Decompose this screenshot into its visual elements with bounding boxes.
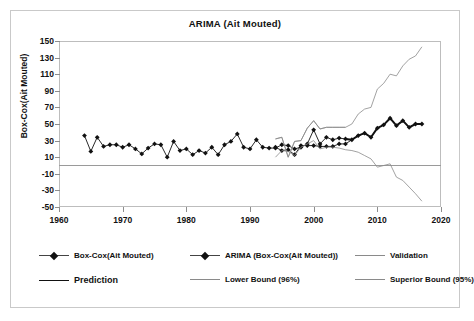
data-point-marker xyxy=(330,137,335,142)
x-axis-tick-label: 1970 xyxy=(113,215,132,225)
data-point-marker xyxy=(324,144,329,149)
data-point-marker xyxy=(241,145,246,150)
x-axis-tick-label: 2000 xyxy=(304,215,323,225)
legend-swatch-line-marker xyxy=(39,252,69,260)
y-axis-tick-mark xyxy=(55,157,60,158)
data-point-marker xyxy=(286,143,291,148)
x-axis-tick-mark xyxy=(377,207,378,212)
series-line xyxy=(275,47,421,157)
data-point-marker xyxy=(267,146,272,151)
legend-swatch-line xyxy=(39,276,69,284)
data-point-marker xyxy=(158,142,163,147)
chart-title: ARIMA (Ait Mouted) xyxy=(11,18,459,29)
y-axis-tick-label: 70 xyxy=(45,102,54,112)
x-axis-tick-label: 1980 xyxy=(177,215,196,225)
x-axis-tick-mark xyxy=(123,207,124,212)
legend-label: Box-Cox(Ait Mouted) xyxy=(74,251,154,260)
legend-item-arima: ARIMA (Box-Cox(Ait Mouted)) xyxy=(190,251,338,260)
chart-figure: ARIMA (Ait Mouted) Box-Cox(Ait Mouted) -… xyxy=(10,10,460,308)
data-point-marker xyxy=(114,142,119,147)
x-axis-tick-mark xyxy=(441,207,442,212)
data-point-marker xyxy=(330,144,335,149)
data-point-marker xyxy=(165,155,170,160)
y-axis-tick-mark xyxy=(55,91,60,92)
y-axis-tick-mark xyxy=(55,107,60,108)
data-point-marker xyxy=(152,142,157,147)
y-axis-tick-mark xyxy=(55,174,60,175)
legend-swatch-line xyxy=(190,276,220,284)
legend-label: ARIMA (Box-Cox(Ait Mouted)) xyxy=(225,251,338,260)
legend-swatch-line xyxy=(355,276,385,284)
legend-swatch-line-marker xyxy=(190,252,220,260)
legend-item-lower-bound: Lower Bound (96%) xyxy=(190,275,300,284)
x-axis-tick-mark xyxy=(186,207,187,212)
data-point-marker xyxy=(88,149,93,154)
legend-label: Superior Bound (95%) xyxy=(390,275,474,284)
data-point-marker xyxy=(273,145,278,150)
x-axis-tick-label: 1960 xyxy=(50,215,69,225)
y-axis-tick-label: 110 xyxy=(40,69,54,79)
legend-label: Validation xyxy=(390,251,428,260)
x-axis-tick-mark xyxy=(250,207,251,212)
legend-label: Prediction xyxy=(74,275,118,285)
y-axis-tick-mark xyxy=(55,124,60,125)
data-point-marker xyxy=(311,143,316,148)
y-axis-tick-label: 30 xyxy=(45,136,54,146)
data-point-marker xyxy=(108,142,113,147)
y-axis-tick-mark xyxy=(55,41,60,42)
y-axis-tick-label: 90 xyxy=(45,86,54,96)
y-axis-label: Box-Cox(Ait Mouted) xyxy=(19,41,29,151)
x-axis-tick-label: 2010 xyxy=(368,215,387,225)
legend-label: Lower Bound (96%) xyxy=(225,275,300,284)
y-axis-tick-label: 50 xyxy=(45,119,54,129)
data-point-marker xyxy=(292,146,297,151)
data-point-marker xyxy=(311,127,316,132)
data-point-marker xyxy=(82,133,87,138)
data-point-marker xyxy=(120,145,125,150)
data-point-marker xyxy=(222,142,227,147)
legend-item-box-cox: Box-Cox(Ait Mouted) xyxy=(39,251,154,260)
y-axis-tick-mark xyxy=(55,190,60,191)
legend-item-validation: Validation xyxy=(355,251,428,260)
data-point-marker xyxy=(197,148,202,153)
legend-swatch-line xyxy=(355,252,385,260)
y-axis-tick-mark xyxy=(55,58,60,59)
y-axis-tick-label: 150 xyxy=(40,36,54,46)
plot-area: -50-30-101030507090110130150196019701980… xyxy=(59,41,441,207)
legend-item-prediction: Prediction xyxy=(39,275,118,285)
y-axis-tick-label: -10 xyxy=(42,169,54,179)
x-axis-tick-mark xyxy=(314,207,315,212)
x-axis-tick-label: 1990 xyxy=(241,215,260,225)
x-axis-tick-mark xyxy=(59,207,60,212)
series-line xyxy=(275,141,421,202)
data-point-marker xyxy=(127,142,132,147)
legend-item-superior-bound: Superior Bound (95%) xyxy=(355,275,474,284)
y-axis-tick-mark xyxy=(55,74,60,75)
y-axis-tick-label: -50 xyxy=(42,202,54,212)
y-axis-tick-label: -30 xyxy=(42,185,54,195)
chart-legend: Box-Cox(Ait Mouted) ARIMA (Box-Cox(Ait M… xyxy=(25,251,449,299)
y-axis-tick-label: 10 xyxy=(45,152,54,162)
series-line xyxy=(346,118,422,140)
data-point-marker xyxy=(337,136,342,141)
y-axis-tick-mark xyxy=(55,141,60,142)
data-point-marker xyxy=(337,142,342,147)
y-axis-tick-label: 130 xyxy=(40,53,54,63)
data-point-marker xyxy=(343,142,348,147)
chart-canvas xyxy=(59,41,441,207)
x-axis-tick-label: 2020 xyxy=(432,215,451,225)
